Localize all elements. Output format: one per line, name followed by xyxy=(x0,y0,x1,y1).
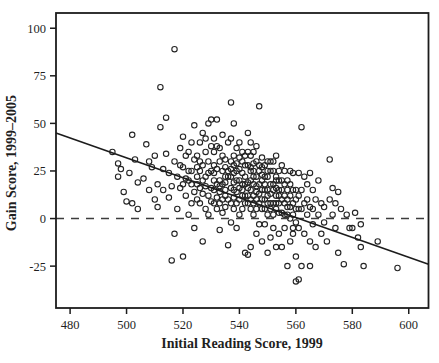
data-point-marker xyxy=(307,170,312,175)
data-point-marker xyxy=(161,187,166,192)
data-point-marker xyxy=(251,149,256,154)
data-point-marker xyxy=(135,206,140,211)
data-point-marker xyxy=(285,178,290,183)
data-point-marker xyxy=(121,189,126,194)
data-point-marker xyxy=(220,197,225,202)
data-point-marker xyxy=(254,144,259,149)
data-point-marker xyxy=(248,244,253,249)
data-point-marker xyxy=(273,244,278,249)
data-point-marker xyxy=(259,239,264,244)
data-point-marker xyxy=(169,258,174,263)
data-point-marker xyxy=(299,125,304,130)
data-point-marker xyxy=(172,47,177,52)
data-point-marker xyxy=(180,254,185,259)
data-point-marker xyxy=(197,201,202,206)
data-point-marker xyxy=(118,166,123,171)
data-point-marker xyxy=(166,195,171,200)
data-point-marker xyxy=(324,239,329,244)
data-point-marker xyxy=(296,170,301,175)
data-point-marker xyxy=(327,157,332,162)
data-point-marker xyxy=(200,191,205,196)
data-point-marker xyxy=(211,136,216,141)
data-point-marker xyxy=(259,178,264,183)
data-point-marker xyxy=(240,170,245,175)
data-point-marker xyxy=(240,206,245,211)
data-point-marker xyxy=(319,201,324,206)
data-point-marker xyxy=(192,157,197,162)
data-point-marker xyxy=(183,193,188,198)
data-point-marker xyxy=(285,263,290,268)
data-point-marker xyxy=(175,206,180,211)
data-point-marker xyxy=(169,184,174,189)
data-point-marker xyxy=(152,197,157,202)
data-point-marker xyxy=(285,197,290,202)
data-point-marker xyxy=(183,153,188,158)
data-point-marker xyxy=(172,159,177,164)
data-point-marker xyxy=(341,262,346,267)
data-point-marker xyxy=(276,168,281,173)
data-point-marker xyxy=(248,206,253,211)
data-point-marker xyxy=(296,225,301,230)
data-point-marker xyxy=(265,250,270,255)
y-tick-label: 0 xyxy=(40,212,46,226)
data-point-marker xyxy=(293,254,298,259)
data-point-marker xyxy=(262,182,267,187)
data-point-marker xyxy=(214,195,219,200)
data-point-marker xyxy=(194,153,199,158)
data-point-marker xyxy=(194,197,199,202)
data-point-marker xyxy=(333,201,338,206)
data-point-marker xyxy=(203,149,208,154)
data-point-marker xyxy=(237,155,242,160)
y-tick-label: 25 xyxy=(34,164,47,178)
data-point-marker xyxy=(197,185,202,190)
data-point-marker xyxy=(293,220,298,225)
data-points-layer xyxy=(110,47,400,285)
data-point-marker xyxy=(178,185,183,190)
data-point-marker xyxy=(220,210,225,215)
data-point-marker xyxy=(313,197,318,202)
data-point-marker xyxy=(203,206,208,211)
data-point-marker xyxy=(305,212,310,217)
data-point-marker xyxy=(200,163,205,168)
data-point-marker xyxy=(231,153,236,158)
data-point-marker xyxy=(307,263,312,268)
data-point-marker xyxy=(189,201,194,206)
data-point-marker xyxy=(282,193,287,198)
data-point-marker xyxy=(338,206,343,211)
data-point-marker xyxy=(130,132,135,137)
regression-line xyxy=(56,133,429,264)
data-point-marker xyxy=(296,193,301,198)
data-point-marker xyxy=(192,225,197,230)
data-point-marker xyxy=(206,159,211,164)
y-tick-label: 50 xyxy=(34,117,47,131)
data-point-marker xyxy=(146,187,151,192)
data-point-marker xyxy=(285,187,290,192)
data-point-marker xyxy=(223,157,228,162)
data-point-marker xyxy=(319,231,324,236)
data-point-marker xyxy=(228,159,233,164)
data-point-marker xyxy=(192,189,197,194)
data-point-marker xyxy=(358,244,363,249)
data-point-marker xyxy=(158,125,163,130)
x-tick-label: 500 xyxy=(117,318,136,332)
data-point-marker xyxy=(330,212,335,217)
data-point-marker xyxy=(302,174,307,179)
data-point-marker xyxy=(282,225,287,230)
data-point-marker xyxy=(271,225,276,230)
data-point-marker xyxy=(395,265,400,270)
data-point-marker xyxy=(186,149,191,154)
data-point-marker xyxy=(124,199,129,204)
data-point-marker xyxy=(313,244,318,249)
data-point-marker xyxy=(127,170,132,175)
data-point-marker xyxy=(358,222,363,227)
data-point-marker xyxy=(144,142,149,147)
data-point-marker xyxy=(257,104,262,109)
data-point-marker xyxy=(197,159,202,164)
data-point-marker xyxy=(336,250,341,255)
data-point-marker xyxy=(180,182,185,187)
data-point-marker xyxy=(163,115,168,120)
data-point-marker xyxy=(220,153,225,158)
data-point-marker xyxy=(228,136,233,141)
data-point-marker xyxy=(245,149,250,154)
data-point-marker xyxy=(209,144,214,149)
